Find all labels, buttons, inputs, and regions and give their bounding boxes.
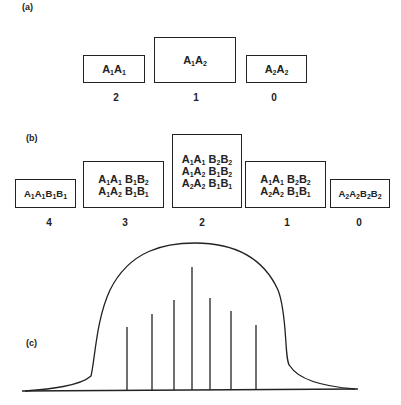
distribution-plot: [0, 0, 401, 405]
baseline: [22, 389, 358, 391]
bell-curve: [25, 243, 355, 391]
distribution-bars: [127, 267, 256, 390]
